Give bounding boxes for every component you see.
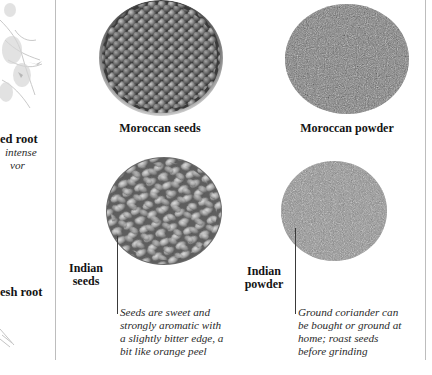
indian-seeds-label: Indian seeds [60,262,112,288]
moroccan-seeds-image [97,0,225,120]
dried-root-caption-line1: intense [5,146,37,159]
indian-seeds-label-line2: seeds [60,275,112,288]
indian-seeds-leader-line [117,236,118,314]
indian-powder-label-line2: powder [238,278,290,291]
dried-root-label: ed root [0,133,38,146]
left-column-divider [55,0,56,360]
dried-root-image [0,0,55,120]
fresh-root-label: esh root [0,286,42,299]
moroccan-powder-image [282,2,412,116]
indian-powder-caption: Ground coriander can be bought or ground… [298,306,428,358]
fresh-root-image [0,325,20,355]
indian-seeds-caption: Seeds are sweet and strongly aromatic wi… [120,306,260,358]
moroccan-powder-label: Moroccan powder [287,122,407,135]
indian-powder-label: Indian powder [238,265,290,291]
indian-seeds-image [103,155,225,267]
indian-powder-leader-line [295,228,296,314]
dried-root-caption-line2: vor [10,159,25,172]
moroccan-seeds-label: Moroccan seeds [100,122,220,135]
